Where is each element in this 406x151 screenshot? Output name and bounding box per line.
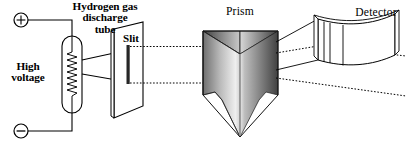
slit-aperture xyxy=(127,45,130,84)
discharge-tube xyxy=(62,36,82,113)
label-prism: Prism xyxy=(210,6,270,18)
label-hydrogen-discharge-tube: Hydrogen gas discharge tube xyxy=(60,1,150,35)
wire-negative xyxy=(28,113,72,131)
ray-upper-out xyxy=(276,46,318,53)
negative-terminal xyxy=(14,124,28,138)
guide-lower xyxy=(276,60,318,70)
label-slit: Slit xyxy=(113,33,149,44)
label-high-voltage: High voltage xyxy=(0,61,56,84)
detector-left-edge xyxy=(314,15,318,60)
detector-perspective-guides xyxy=(276,19,318,70)
label-detector: Detector xyxy=(346,7,406,19)
ray-lower-out xyxy=(276,78,406,96)
guide-upper xyxy=(276,19,318,42)
prism xyxy=(203,31,278,137)
positive-terminal xyxy=(14,13,28,27)
spectroscopy-diagram: Hydrogen gas discharge tube High voltage… xyxy=(0,0,406,151)
